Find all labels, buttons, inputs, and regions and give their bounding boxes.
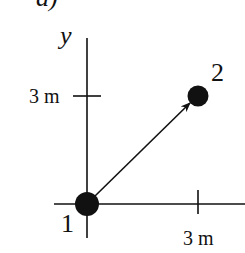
y-tick-label: 3 m <box>29 85 60 107</box>
point-1-label: 1 <box>61 209 74 238</box>
panel-label: a) <box>36 0 58 12</box>
point-2-dot <box>188 86 209 107</box>
x-tick-label: 3 m <box>183 227 214 249</box>
displacement-diagram: a) y 3 m 3 m 1 2 <box>0 0 245 253</box>
point-1-dot <box>75 192 99 216</box>
y-axis-label: y <box>57 21 72 50</box>
point-2-label: 2 <box>211 58 224 87</box>
displacement-arrow <box>95 103 190 196</box>
